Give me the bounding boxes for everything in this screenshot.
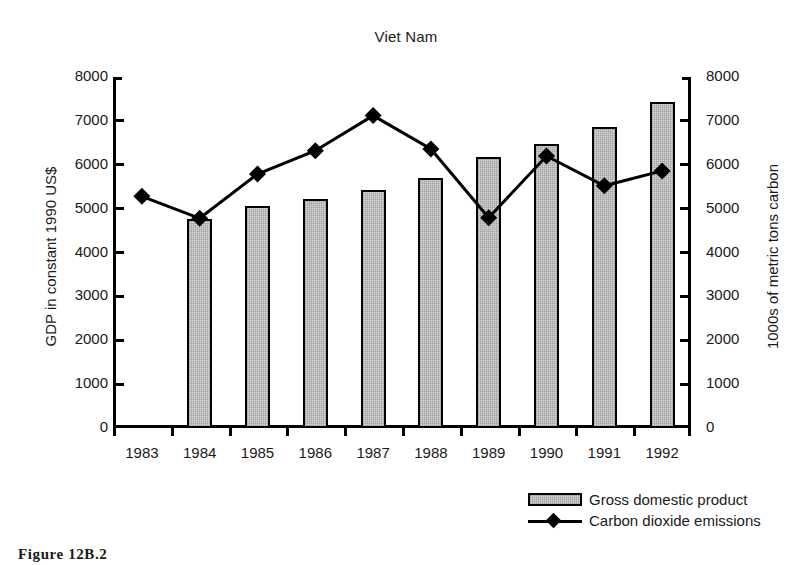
x-tick bbox=[575, 428, 578, 436]
legend-item-label: Gross domestic product bbox=[589, 491, 747, 508]
x-tick bbox=[229, 428, 232, 436]
y-tick-label-left: 1000 bbox=[18, 374, 108, 391]
y-tick-label-right: 6000 bbox=[706, 155, 796, 172]
x-tick-label: 1986 bbox=[285, 444, 345, 461]
y-tick-label-left: 5000 bbox=[18, 199, 108, 216]
y-tick-label-left: 6000 bbox=[18, 155, 108, 172]
y-tick-label-right: 5000 bbox=[706, 199, 796, 216]
y-tick-label-left: 2000 bbox=[18, 330, 108, 347]
y-tick-label-right: 3000 bbox=[706, 286, 796, 303]
plot-area bbox=[113, 77, 691, 428]
x-tick bbox=[518, 428, 521, 436]
x-tick-label: 1987 bbox=[343, 444, 403, 461]
x-tick bbox=[460, 428, 463, 436]
data-point-marker bbox=[307, 142, 324, 159]
x-tick bbox=[402, 428, 405, 436]
y-tick-label-left: 8000 bbox=[18, 67, 108, 84]
line-path bbox=[142, 116, 662, 219]
data-point-marker bbox=[365, 107, 382, 124]
x-tick-label: 1992 bbox=[632, 444, 692, 461]
chart-title: Viet Nam bbox=[0, 28, 812, 45]
x-tick bbox=[113, 428, 116, 436]
x-tick bbox=[633, 428, 636, 436]
figure-caption: Figure 12B.2 bbox=[18, 546, 107, 563]
y-tick-label-left: 4000 bbox=[18, 243, 108, 260]
x-tick-label: 1985 bbox=[228, 444, 288, 461]
x-tick bbox=[344, 428, 347, 436]
figure-container: Viet Nam GDP in constant 1990 US$ 1000s … bbox=[0, 0, 812, 565]
x-tick bbox=[286, 428, 289, 436]
x-tick bbox=[171, 428, 174, 436]
y-tick-label-right: 7000 bbox=[706, 111, 796, 128]
y-tick-label-right: 2000 bbox=[706, 330, 796, 347]
line-series-carbon-dioxide-emissions bbox=[113, 77, 691, 428]
y-tick-label-left: 7000 bbox=[18, 111, 108, 128]
data-point-marker bbox=[133, 188, 150, 205]
bar-swatch-icon bbox=[528, 493, 582, 506]
x-tick-label: 1989 bbox=[459, 444, 519, 461]
y-tick-label-right: 0 bbox=[706, 418, 796, 435]
data-point-marker bbox=[596, 177, 613, 194]
y-tick-label-right: 1000 bbox=[706, 374, 796, 391]
legend-item-gross-domestic-product: Gross domestic product bbox=[528, 489, 808, 510]
line-diamond-icon bbox=[528, 514, 582, 528]
x-tick-label: 1990 bbox=[517, 444, 577, 461]
x-tick bbox=[688, 428, 691, 436]
y-tick-label-right: 8000 bbox=[706, 67, 796, 84]
x-tick-label: 1991 bbox=[574, 444, 634, 461]
x-tick-label: 1983 bbox=[112, 444, 172, 461]
y-tick-label-right: 4000 bbox=[706, 243, 796, 260]
legend: Gross domestic product Carbon dioxide em… bbox=[528, 489, 808, 531]
x-tick-label: 1988 bbox=[401, 444, 461, 461]
legend-item-carbon-dioxide-emissions: Carbon dioxide emissions bbox=[528, 510, 808, 531]
y-tick-label-left: 0 bbox=[18, 418, 108, 435]
y-tick-label-left: 3000 bbox=[18, 286, 108, 303]
x-tick-label: 1984 bbox=[170, 444, 230, 461]
legend-item-label: Carbon dioxide emissions bbox=[589, 512, 761, 529]
data-point-marker bbox=[654, 162, 671, 179]
